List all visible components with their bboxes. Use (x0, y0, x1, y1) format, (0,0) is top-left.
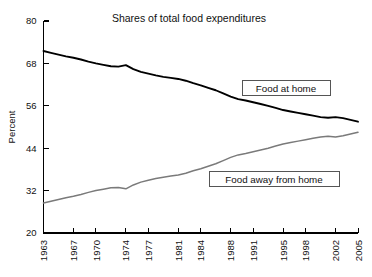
y-tick-label: 44 (26, 143, 37, 154)
x-tick-label: 1995 (278, 240, 289, 261)
chart-container: 203244566880 196319671970197419771981198… (0, 0, 372, 277)
x-tick-label: 1988 (225, 240, 236, 261)
chart-title: Shares of total food expenditures (112, 12, 266, 24)
y-tick-label: 80 (26, 15, 37, 26)
x-tick-label: 1981 (173, 240, 184, 261)
y-tick-label: 20 (26, 227, 37, 238)
x-tick-label: 1967 (68, 240, 79, 261)
x-tick-label: 1991 (248, 240, 259, 261)
series-line-food-away-from-home (44, 132, 359, 203)
y-tick-label: 68 (26, 58, 37, 69)
x-tick-label: 2005 (353, 240, 364, 261)
x-axis-tick-labels: 1963196719701974197719811984198819911995… (38, 240, 364, 261)
legend-food-at-home-label: Food at home (256, 83, 317, 94)
x-tick-label: 1998 (300, 240, 311, 261)
line-chart: 203244566880 196319671970197419771981198… (0, 0, 372, 277)
axes-layer (44, 21, 359, 233)
x-tick-label: 1984 (195, 240, 206, 261)
x-tick-label: 1977 (143, 240, 154, 261)
axis-lines (44, 21, 359, 233)
y-axis-tick-labels: 203244566880 (26, 15, 37, 238)
y-tick-label: 56 (26, 100, 37, 111)
y-axis-title: Percent (6, 110, 17, 143)
y-tick-label: 32 (26, 185, 37, 196)
legend-food-away-from-home-label: Food away from home (225, 174, 323, 185)
x-tick-label: 1970 (91, 240, 102, 261)
x-tick-label: 2002 (330, 240, 341, 261)
x-tick-label: 1974 (120, 240, 131, 261)
x-tick-label: 1963 (38, 240, 49, 261)
